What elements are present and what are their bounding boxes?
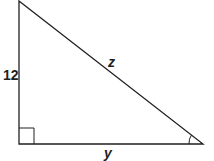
horizontal-leg-label: y [104, 146, 112, 160]
hypotenuse-label: z [108, 55, 115, 69]
angle-arc-marker [189, 135, 192, 144]
vertical-leg-label: 12 [3, 68, 19, 82]
triangle-figure [0, 0, 214, 161]
triangle [19, 1, 203, 144]
right-angle-marker [19, 128, 34, 144]
